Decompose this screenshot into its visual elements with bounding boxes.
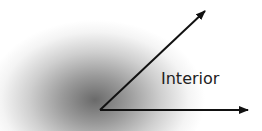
angle-figure: Interior <box>0 0 262 131</box>
upper-ray-arrow <box>100 11 205 110</box>
angle-diagram: Interior <box>0 0 262 131</box>
interior-label: Interior <box>161 69 220 88</box>
